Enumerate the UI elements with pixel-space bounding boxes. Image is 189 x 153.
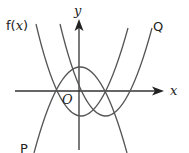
label-q: Q: [153, 19, 163, 34]
curve-f: [36, 24, 128, 116]
curve-q: [60, 24, 152, 116]
label-f: f(x): [6, 18, 28, 33]
label-y-axis: y: [73, 3, 82, 18]
x-axis: [15, 87, 164, 96]
function-graph: f(x) Q P y x O: [0, 0, 189, 153]
curve-p: [34, 67, 127, 153]
label-origin: O: [62, 92, 73, 107]
label-x-axis: x: [170, 83, 178, 98]
label-p: P: [20, 141, 28, 153]
